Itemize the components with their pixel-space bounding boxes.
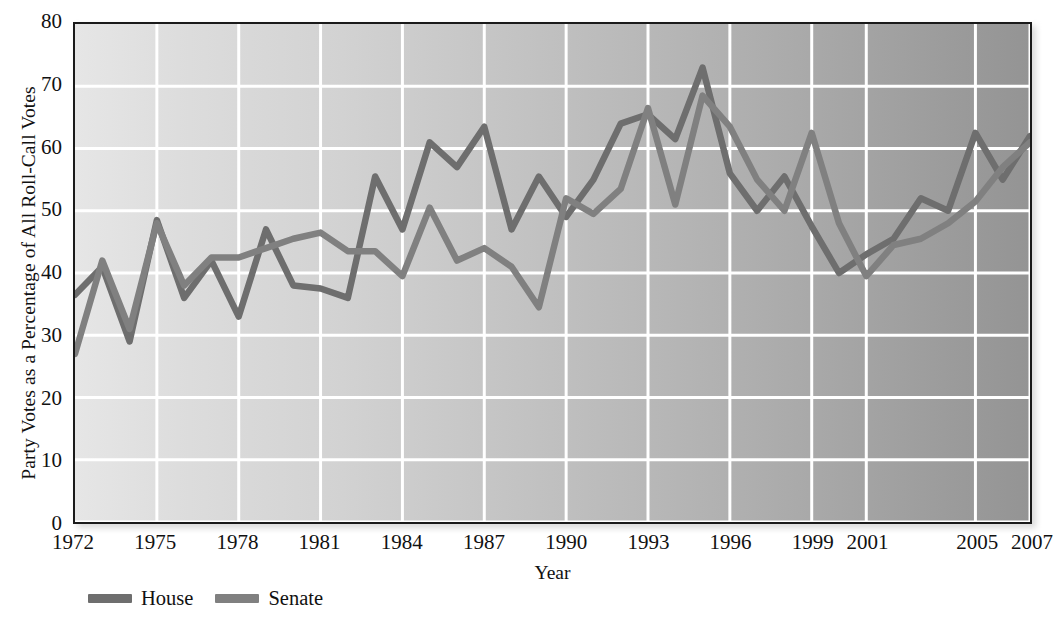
y-axis-tick-label: 60 [10, 137, 62, 158]
x-axis-tick-label: 1981 [299, 532, 341, 553]
y-axis-tick-label: 40 [10, 262, 62, 283]
legend-label: House [141, 588, 193, 609]
x-axis-title: Year [73, 562, 1032, 584]
legend-swatch-icon [88, 594, 132, 603]
legend-label: Senate [268, 588, 323, 609]
series-line-senate [75, 96, 1030, 354]
plot-area [73, 22, 1032, 524]
series-line-house [75, 68, 1030, 342]
x-axis-tick-label: 1987 [463, 532, 505, 553]
legend-item: House [88, 588, 193, 609]
x-axis-tick-label: 1975 [134, 532, 176, 553]
x-axis-tick-label: 2001 [847, 532, 889, 553]
chart-legend: HouseSenate [88, 588, 323, 609]
y-axis-tick-label: 30 [10, 325, 62, 346]
x-axis-tick-labels: 1972197519781981198419871990199319961999… [0, 532, 1042, 566]
x-axis-tick-label: 1978 [216, 532, 258, 553]
legend-swatch-icon [215, 594, 259, 603]
x-axis-tick-label: 2007 [1011, 532, 1053, 553]
x-axis-tick-label: 2005 [956, 532, 998, 553]
x-axis-tick-label: 1984 [381, 532, 423, 553]
x-axis-tick-label: 1990 [545, 532, 587, 553]
legend-item: Senate [215, 588, 323, 609]
x-axis-tick-label: 1972 [52, 532, 94, 553]
y-axis-tick-label: 50 [10, 199, 62, 220]
x-axis-tick-label: 1993 [627, 532, 669, 553]
y-axis-tick-label: 10 [10, 450, 62, 471]
x-axis-tick-label: 1996 [710, 532, 752, 553]
data-lines [75, 24, 1030, 522]
y-axis-tick-label: 80 [10, 11, 62, 32]
y-axis-tick-label: 70 [10, 74, 62, 95]
y-axis-tick-label: 20 [10, 388, 62, 409]
x-axis-tick-label: 1999 [792, 532, 834, 553]
